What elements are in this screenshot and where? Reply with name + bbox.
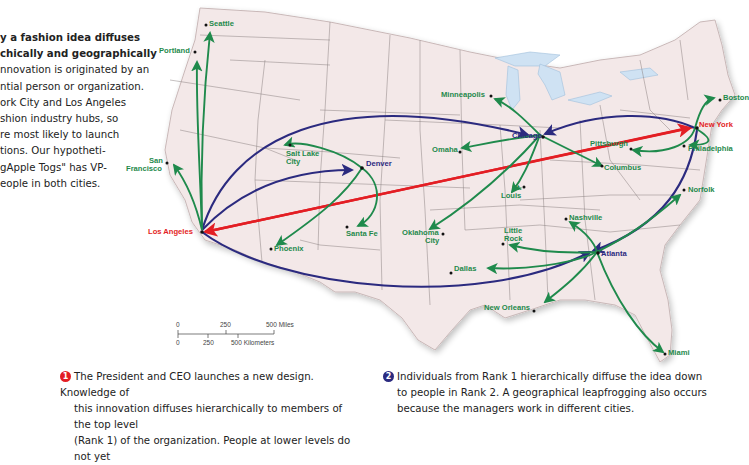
step-1-line: The President and CEO launches a new des… [60,371,314,398]
city-label-dallas: Dallas [454,264,476,273]
city-label-boston: Boston [723,93,749,102]
scale-miles-250: 250 [220,321,231,328]
city-label-columbus: Columbus [604,163,641,172]
intro-body-line: ntial person or organization. [0,79,205,95]
city-label-new-york: New York [699,120,734,129]
city-label-atlanta: Atlanta [601,249,628,258]
city-label-pittsburgh: Pittsburgh [590,139,628,148]
scale-bar [178,330,274,338]
city-label-new-orleans: New Orleans [484,303,530,312]
step-1: 1The President and CEO launches a new de… [60,369,360,465]
intro-body-line: nnovation is originated by an [0,62,205,78]
scale-miles-0: 0 [176,321,180,328]
scale-km-250: 250 [203,339,214,346]
step-2-number-badge: 2 [383,371,394,382]
step-2: 2Individuals from Rank 1 hierarchically … [383,369,749,417]
intro-body-line: re most likely to launch [0,127,205,143]
intro-title-line2: chically and geographically [0,46,205,62]
scale-km-0: 0 [176,339,180,346]
city-label-philadelphia: Philadelphia [688,144,734,153]
step-1-number-badge: 1 [60,371,71,382]
city-label-salt-lake-2: City [286,157,301,166]
intro-body-line: tions. Our hypotheti- [0,143,205,159]
intro-body-line: gApple Togs" has VP- [0,160,205,176]
intro-text: y a fashion idea diffuses chically and g… [0,30,205,192]
city-label-nashville: Nashville [569,213,602,222]
city-label-seattle: Seattle [209,19,234,28]
city-label-oklahoma-2: City [425,236,440,245]
city-label-minneapolis: Minneapolis [441,90,485,99]
scale-km-500: 500 Kilometers [231,339,274,346]
city-label-little-rock-2: Rock [504,234,523,243]
city-label-miami: Miami [668,348,690,357]
step-1-line: (Rank 1) of the organization. People at … [60,433,360,465]
intro-title-line1: y a fashion idea diffuses [0,30,205,46]
city-label-chicago: Chicago [512,131,542,140]
city-label-st-louis-2: Louis [501,191,521,200]
step-2-line: Individuals from Rank 1 hierarchically d… [397,371,702,382]
city-label-los-angeles: Los Angeles [148,227,193,236]
city-label-norfolk: Norfolk [688,185,715,194]
step-1-line: this innovation diffuses hierarchically … [60,401,360,433]
intro-body-line: ork City and Los Angeles [0,95,205,111]
city-label-omaha: Omaha [432,145,459,154]
city-label-santa-fe: Santa Fe [346,229,378,238]
intro-body-line: shion industry hubs, so [0,111,205,127]
city-label-phoenix: Phoenix [274,244,304,253]
step-2-line: to people in Rank 2. A geographical leap… [383,385,749,401]
intro-body-line: eople in both cities. [0,176,205,192]
scale-miles-500: 500 Miles [266,321,294,328]
step-2-line: because the managers work in different c… [383,401,749,417]
city-label-denver: Denver [366,159,392,168]
